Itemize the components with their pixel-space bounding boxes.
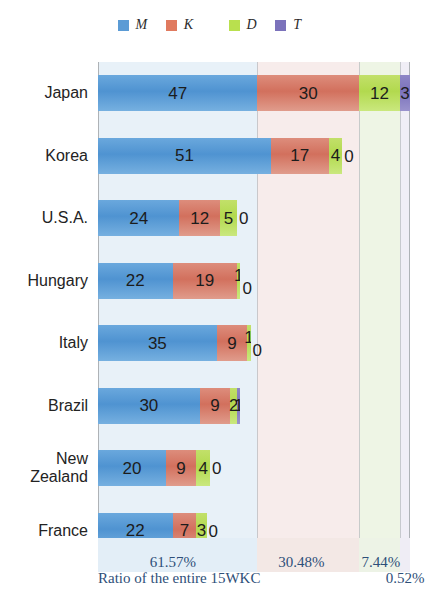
bar-value-label: 19 bbox=[195, 272, 214, 289]
stacked-bar-u-s-a: 24125 bbox=[98, 200, 237, 236]
legend-label-d: D bbox=[247, 17, 258, 33]
bar-value-label-t-zero: 0 bbox=[253, 342, 262, 359]
bar-value-label: 22 bbox=[126, 272, 145, 289]
category-label-japan: Japan bbox=[0, 62, 95, 125]
bar-segment-k: 9 bbox=[200, 388, 231, 424]
bar-segment-k: 30 bbox=[257, 75, 359, 111]
bar-segment-k: 19 bbox=[173, 263, 237, 299]
bar-value-label: 30 bbox=[299, 85, 318, 102]
bar-value-label: 30 bbox=[139, 397, 158, 414]
bar-value-label-t-zero: 0 bbox=[242, 280, 251, 297]
ratio-band: 61.57% 30.48% 7.44% bbox=[98, 538, 410, 572]
bar-value-label: 4 bbox=[331, 147, 340, 164]
bar-segment-m: 24 bbox=[98, 200, 179, 236]
chart-legend: M K D T bbox=[0, 12, 419, 38]
bar-value-label-t-zero: 0 bbox=[212, 460, 221, 477]
bar-value-label-t-zero: 0 bbox=[239, 210, 248, 227]
legend-item-m: M bbox=[118, 17, 148, 33]
bar-value-label: 20 bbox=[122, 460, 141, 477]
bar-value-label: 12 bbox=[190, 210, 209, 227]
ratio-percent-d: 7.44% bbox=[361, 554, 400, 571]
bar-row: 241250 bbox=[98, 187, 410, 250]
category-label-france: France bbox=[0, 500, 95, 563]
legend-swatch-m-icon bbox=[118, 20, 129, 31]
bar-segment-m: 20 bbox=[98, 450, 166, 486]
bar-segment-k: 9 bbox=[217, 325, 248, 361]
legend-label-m: M bbox=[136, 17, 148, 33]
bar-value-label: 3 bbox=[197, 522, 206, 539]
bar-row: 30921 bbox=[98, 375, 410, 438]
bar-value-label: 1 bbox=[234, 397, 240, 414]
bar-value-label: 35 bbox=[148, 335, 167, 352]
bar-value-label: 9 bbox=[176, 460, 185, 477]
bar-row: 20940 bbox=[98, 437, 410, 500]
legend-swatch-d-icon bbox=[229, 20, 240, 31]
bar-row: 221910 bbox=[98, 250, 410, 313]
bar-value-label: 4 bbox=[198, 460, 207, 477]
category-label-korea: Korea bbox=[0, 125, 95, 188]
plot-area: 4730123511740241250221910359103092120940… bbox=[98, 62, 410, 562]
bar-value-label: 7 bbox=[180, 522, 189, 539]
bar-segment-k: 9 bbox=[166, 450, 197, 486]
chart-caption: Ratio of the entire 15WKC bbox=[98, 570, 410, 587]
bar-value-label: 3 bbox=[400, 85, 409, 102]
ratio-band-t bbox=[400, 538, 410, 572]
legend-swatch-k-icon bbox=[166, 20, 177, 31]
bar-value-label-t-zero: 0 bbox=[209, 523, 218, 540]
ratio-percent-k: 30.48% bbox=[278, 554, 324, 571]
stacked-bar-japan: 4730123 bbox=[98, 75, 410, 111]
bar-value-label: 17 bbox=[290, 147, 309, 164]
bar-value-label: 51 bbox=[175, 147, 194, 164]
bar-segment-d: 5 bbox=[220, 200, 237, 236]
bar-segment-d: 1 bbox=[237, 263, 240, 299]
legend-swatch-t-icon bbox=[275, 20, 286, 31]
bar-value-label: 1 bbox=[234, 267, 240, 284]
bar-segment-m: 47 bbox=[98, 75, 257, 111]
bar-value-label: 9 bbox=[210, 397, 219, 414]
bar-segment-t: 3 bbox=[400, 75, 410, 111]
category-label-brazil: Brazil bbox=[0, 375, 95, 438]
bar-segment-t: 1 bbox=[237, 388, 240, 424]
ratio-percent-m: 61.57% bbox=[150, 554, 196, 571]
legend-label-t: T bbox=[293, 17, 301, 33]
bar-row: 35910 bbox=[98, 312, 410, 375]
bar-segment-m: 22 bbox=[98, 263, 173, 299]
stacked-bar-italy: 3591 bbox=[98, 325, 251, 361]
bar-value-label: 24 bbox=[129, 210, 148, 227]
bar-value-label-t-zero: 0 bbox=[344, 148, 353, 165]
category-label-italy: Italy bbox=[0, 312, 95, 375]
category-axis: JapanKoreaU.S.A.HungaryItalyBrazilNewZea… bbox=[0, 62, 95, 562]
bar-segment-d: 4 bbox=[196, 450, 210, 486]
bar-row: 511740 bbox=[98, 125, 410, 188]
legend-item-d: D bbox=[229, 17, 258, 33]
stacked-bar-hungary: 22191 bbox=[98, 263, 240, 299]
category-label-hungary: Hungary bbox=[0, 250, 95, 313]
stacked-bar-brazil: 30921 bbox=[98, 388, 240, 424]
bar-rows: 4730123511740241250221910359103092120940… bbox=[98, 62, 410, 562]
legend-item-t: T bbox=[275, 17, 301, 33]
bar-segment-d: 1 bbox=[247, 325, 250, 361]
bar-segment-k: 17 bbox=[271, 138, 329, 174]
bar-value-label: 5 bbox=[224, 210, 233, 227]
stacked-bar-new-zealand: 2094 bbox=[98, 450, 210, 486]
bar-segment-k: 12 bbox=[179, 200, 220, 236]
bar-value-label: 47 bbox=[168, 85, 187, 102]
bar-segment-d: 12 bbox=[359, 75, 400, 111]
bar-segment-m: 35 bbox=[98, 325, 217, 361]
category-label-u-s-a: U.S.A. bbox=[0, 187, 95, 250]
bar-value-label: 9 bbox=[227, 335, 236, 352]
bar-value-label: 1 bbox=[244, 329, 250, 346]
category-label-new-zealand: NewZealand bbox=[0, 437, 95, 500]
bar-value-label: 22 bbox=[126, 522, 145, 539]
bar-row: 4730123 bbox=[98, 62, 410, 125]
bar-segment-m: 30 bbox=[98, 388, 200, 424]
legend-item-k: K bbox=[166, 17, 194, 33]
legend-label-k: K bbox=[184, 17, 194, 33]
bar-segment-d: 4 bbox=[329, 138, 343, 174]
bar-segment-m: 51 bbox=[98, 138, 271, 174]
stacked-bar-korea: 51174 bbox=[98, 138, 342, 174]
bar-value-label: 12 bbox=[370, 85, 389, 102]
